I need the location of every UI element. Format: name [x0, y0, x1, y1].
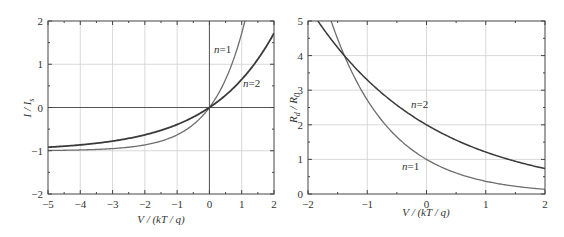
left-xtick-labels: −5−4−3−2−1012	[42, 198, 277, 210]
x-tick-label: −2	[139, 198, 151, 210]
right-curve-label-n1: n=1	[402, 160, 419, 172]
y-tick-label: 4	[298, 50, 304, 62]
x-tick-label: −2	[302, 198, 314, 210]
y-tick-label: 0	[298, 188, 304, 200]
x-tick-label: −3	[107, 198, 119, 210]
left-curve-label-n1: n=1	[214, 43, 231, 55]
y-tick-label: 1	[298, 153, 304, 165]
x-tick-label: −1	[361, 198, 373, 210]
y-tick-label: 1	[38, 58, 44, 70]
curve-n2	[48, 33, 274, 147]
x-tick-label: 1	[239, 198, 245, 210]
right-x-axis-label: V / (kT / q)	[402, 206, 450, 219]
x-tick-label: −4	[74, 198, 86, 210]
x-tick-label: −1	[171, 198, 183, 210]
left-x-axis-label: V / (kT / q)	[137, 213, 185, 226]
y-tick-label: 2	[38, 15, 44, 27]
x-tick-label: 2	[271, 198, 277, 210]
left-y-axis-label: I / Is	[21, 98, 36, 118]
left-curve-label-n2: n=2	[243, 77, 260, 89]
left-grid	[48, 21, 274, 194]
x-tick-label: 1	[483, 198, 489, 210]
right-chart: −2−1012 012345 V / (kT / q) Rd / R0 n=2 …	[287, 0, 548, 219]
y-tick-label: −1	[31, 145, 43, 157]
y-tick-label: 5	[298, 15, 304, 27]
left-chart: −5−4−3−2−1012 −2−1012 V / (kT / q) I / I…	[21, 0, 277, 226]
y-tick-label: −2	[31, 188, 43, 200]
x-tick-label: −5	[42, 198, 54, 210]
x-tick-label: 2	[542, 198, 548, 210]
y-tick-label: 0	[38, 102, 44, 114]
right-curve-label-n2: n=2	[411, 98, 428, 110]
figure: −5−4−3−2−1012 −2−1012 V / (kT / q) I / I…	[0, 0, 564, 237]
left-ytick-labels: −2−1012	[31, 15, 43, 200]
x-tick-label: 0	[207, 198, 213, 210]
